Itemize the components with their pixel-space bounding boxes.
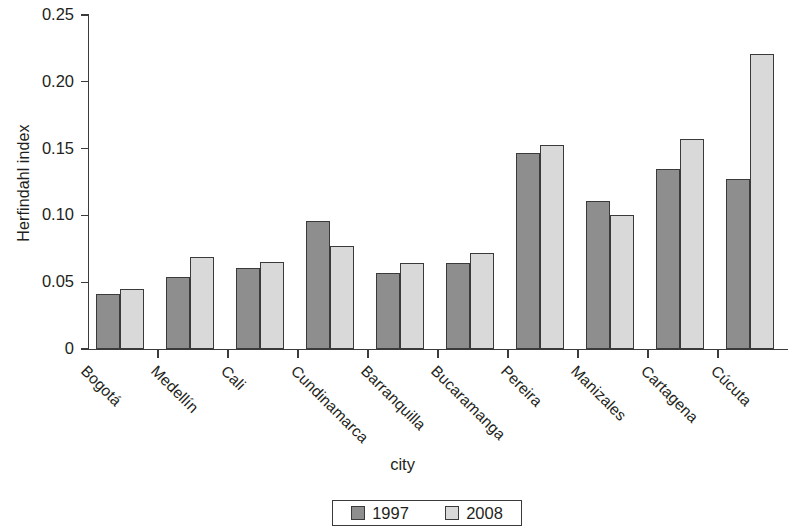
bar <box>516 153 540 349</box>
bar <box>236 268 260 349</box>
x-tick-mark <box>367 350 368 358</box>
bar <box>610 215 634 349</box>
y-tick-mark <box>81 148 89 149</box>
chart-legend: 1997 2008 <box>332 500 522 526</box>
bar <box>726 179 750 349</box>
x-tick-label: Cali <box>217 362 249 394</box>
y-tick-mark <box>81 215 89 216</box>
bar <box>540 145 564 349</box>
bar <box>446 263 470 349</box>
y-tick-label: 0.10 <box>0 206 74 223</box>
legend-label-2008: 2008 <box>466 505 503 522</box>
bar <box>680 139 704 349</box>
bar-chart-figure: Herfindahl index 00.050.100.150.200.25 B… <box>0 0 805 529</box>
x-tick-mark <box>507 350 508 358</box>
x-tick-mark <box>647 350 648 358</box>
legend-label-1997: 1997 <box>372 505 409 522</box>
bar <box>330 246 354 349</box>
x-tick-label: Bogotá <box>77 362 125 410</box>
bar <box>120 289 144 349</box>
y-tick-mark <box>81 282 89 283</box>
y-tick-mark <box>81 14 89 15</box>
bar <box>470 253 494 349</box>
y-tick-label: 0.20 <box>0 73 74 90</box>
x-tick-mark <box>297 350 298 358</box>
bar <box>750 54 774 349</box>
x-tick-mark <box>717 350 718 358</box>
legend-entry-2008: 2008 <box>445 505 503 522</box>
x-tick-label: Cartagena <box>637 362 702 427</box>
x-tick-label: Barranquilla <box>357 362 429 434</box>
bar <box>96 294 120 349</box>
bar <box>586 201 610 349</box>
y-tick-label: 0.05 <box>0 273 74 290</box>
x-tick-label: Pereira <box>497 362 546 411</box>
x-tick-mark <box>577 350 578 358</box>
legend-entry-1997: 1997 <box>351 505 409 522</box>
y-tick-label: 0.15 <box>0 140 74 157</box>
x-tick-mark <box>157 350 158 358</box>
legend-swatch-2008 <box>445 506 459 520</box>
y-tick-label: 0 <box>0 340 74 357</box>
y-axis-title: Herfindahl index <box>15 63 33 303</box>
bar <box>400 263 424 349</box>
x-tick-label: Cúcuta <box>707 362 755 410</box>
x-tick-mark <box>227 350 228 358</box>
y-tick-label: 0.25 <box>0 6 74 23</box>
y-tick-mark <box>81 81 89 82</box>
legend-swatch-1997 <box>351 506 365 520</box>
bar <box>656 169 680 349</box>
bar <box>376 273 400 349</box>
bar <box>166 277 190 349</box>
x-tick-label: Medellín <box>147 362 202 417</box>
bar <box>306 221 330 349</box>
x-tick-label: Manizales <box>567 362 630 425</box>
y-axis-line <box>88 15 89 350</box>
x-tick-mark <box>437 350 438 358</box>
bar <box>260 262 284 349</box>
bar <box>190 257 214 349</box>
x-axis-title: city <box>0 455 805 474</box>
